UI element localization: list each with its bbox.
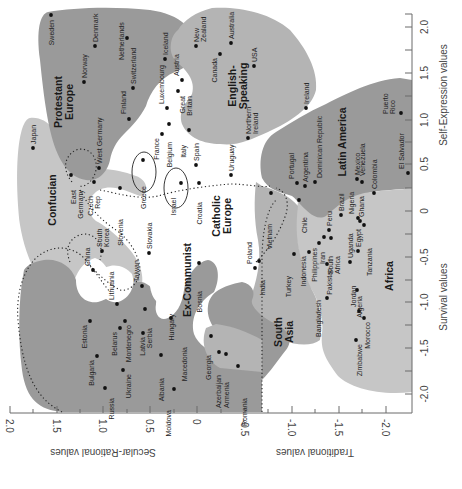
point-south-korea [100,249,104,253]
label-austria: Austria [173,54,180,76]
label-argentina: Argentina [302,152,310,182]
label-uruguay: Uruguay [228,144,236,171]
point-puerto-rico [399,111,403,115]
point-iceland [163,57,167,61]
label-luxembourg: Luxembourg [158,65,166,104]
point-russia [103,386,107,390]
point-peru [327,228,331,232]
point-china [91,268,95,272]
label-serbia: Serbia [146,328,153,348]
label-algeria: Algeria [356,296,364,318]
label-canada: Canada [211,58,218,83]
x-axis-title-traditional: Traditional values [276,447,354,458]
label-chile: Chile [301,217,308,233]
point-france [160,132,164,136]
label-finland: Finland [120,91,127,114]
point-vietnam [269,191,273,195]
point-west-germany [97,166,101,170]
point-moldova [172,387,176,391]
label-dominican-republic: Dominican Republic [316,115,324,178]
label-israel: Israel [170,198,177,216]
point-portugal [295,181,299,185]
y-tick-label: -1.5 [419,339,430,357]
label-croatia: Croatia [196,202,203,225]
point-austria [180,78,184,82]
point-new-zealand [194,44,198,48]
point-uganda [348,260,352,264]
point-bangladesh [325,296,329,300]
point-spain [194,163,198,167]
point-northern-ireland [246,136,250,140]
y-tick-label: 2.0 [419,20,430,34]
x-tick-label: -1.5 [333,419,344,437]
point-armenia [224,352,228,356]
label-jordan: Jordan [350,285,357,307]
label-south-africa: SouthAfrica [327,256,341,274]
label-latvia: Latvia [139,337,146,356]
region-label-africa: Africa [383,261,395,291]
point-japan [31,146,35,150]
y-tick-label: 0.5 [419,157,430,171]
point-luxembourg [165,106,169,110]
point-italy [187,128,191,132]
point-serbia [143,307,147,311]
cultural-map-chart: 2.0 1.5 1.0 0.5 0 -0.5 -1.0 -1.5 -2.0 Se… [0,0,462,489]
label-indonesia: Indonesia [300,256,307,286]
label-iceland: Iceland [162,32,169,55]
label-turkey: Turkey [285,276,293,298]
point-croatia [197,181,201,185]
label-slovakia: Slovakia [146,222,153,249]
point-usa [252,64,256,68]
label-lithuania: Lithuania [108,271,115,300]
label-italy: Italy [180,145,188,158]
y-tick-label: 1.5 [419,66,430,80]
x-tick-label: 1.5 [51,419,62,433]
point-turkey [292,252,296,256]
point-australia [229,41,233,45]
label-iran: Iran [319,252,326,264]
point-venezuela [360,180,364,184]
point-colombia [372,191,376,195]
label-philippines: Philippines [311,248,319,282]
label-france: France [153,138,160,160]
point-azerbaijan [217,350,221,354]
label-russia: Russia [108,398,115,420]
point-south-africa [329,236,333,240]
label-greece: Greece [140,186,147,209]
label-denmark: Denmark [92,13,99,42]
label-el-salvador: El Salvador [398,133,405,169]
label-macedonia: Macedonia [181,347,188,381]
point-netherlands [125,36,129,40]
label-netherlands: Netherlands [118,22,125,60]
label-spain: Spain [193,143,201,161]
point-india [257,259,261,263]
point-argentina [303,184,307,188]
point-lithuania [115,302,119,306]
label-tanzania: Tanzania [366,248,373,276]
label-vietnam: Vietnam [266,224,273,250]
label-georgia: Georgia [205,355,213,380]
point-denmark [93,44,97,48]
y-axis-title-survival: Survival values [438,263,449,330]
label-india: India [259,280,266,295]
label-uganda: Uganda [347,233,355,258]
point-tanzania [362,223,366,227]
point-israel [179,181,183,185]
label-bangladesh: Bangladesh [315,300,323,337]
label-poland: Poland [246,242,253,264]
label-taiwan: Taiwan [133,260,140,282]
x-tick-label: -1.0 [286,419,297,437]
label-slovenia: Slovenia [117,219,124,246]
label-ghana: Ghana [358,196,365,217]
point-el-salvador [406,171,410,175]
point-ghana [358,219,362,223]
point-czech-rep [92,180,96,184]
label-ireland: Ireland [303,82,310,104]
point-zimbabwe [354,338,358,342]
point-jordan [357,309,361,313]
label-australia: Australia [228,12,235,39]
point-poland [253,266,257,270]
label-bosnia: Bosnia [196,291,203,313]
label-portugal: Portugal [288,152,296,179]
point-romania [236,364,240,368]
